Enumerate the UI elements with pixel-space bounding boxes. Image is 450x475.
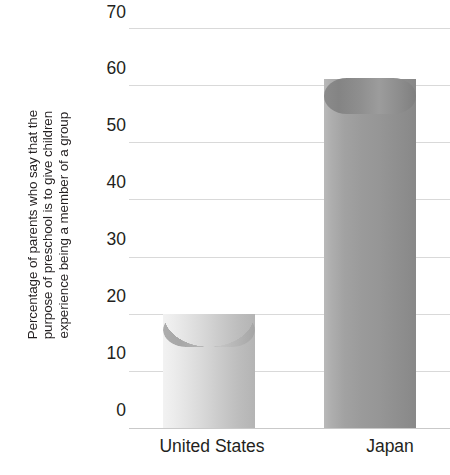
- x-label-japan: Japan: [307, 436, 450, 457]
- y-tick-60: 60: [107, 60, 126, 78]
- bar-body: [163, 314, 255, 428]
- bar-japan[interactable]: [324, 79, 416, 428]
- gridline-0: [129, 428, 450, 429]
- plot-area: [129, 28, 450, 428]
- y-tick-30: 30: [107, 231, 126, 249]
- x-label-united-states: United States: [129, 436, 295, 457]
- y-axis-tick-labels: 70 60 50 40 30 20 10 0: [96, 0, 126, 450]
- y-tick-70: 70: [107, 4, 126, 22]
- y-tick-40: 40: [107, 174, 126, 192]
- y-axis-title-line-2: purpose of preschool is to give children: [40, 111, 55, 339]
- y-tick-50: 50: [107, 117, 126, 135]
- y-tick-10: 10: [107, 345, 126, 363]
- bar-body: [324, 79, 416, 428]
- x-axis-tick-labels: United States Japan: [129, 436, 450, 470]
- y-tick-20: 20: [107, 288, 126, 306]
- bar-united-states[interactable]: [163, 314, 255, 428]
- y-axis-title: Percentage of parents who say that the p…: [0, 0, 96, 450]
- y-axis-title-line-1: Percentage of parents who say that the: [25, 110, 40, 339]
- y-axis-title-line-3: experience being a member of a group: [56, 112, 71, 338]
- gridline-70: [129, 28, 450, 29]
- y-tick-0: 0: [116, 402, 126, 420]
- bar-chart: Percentage of parents who say that the p…: [0, 0, 450, 475]
